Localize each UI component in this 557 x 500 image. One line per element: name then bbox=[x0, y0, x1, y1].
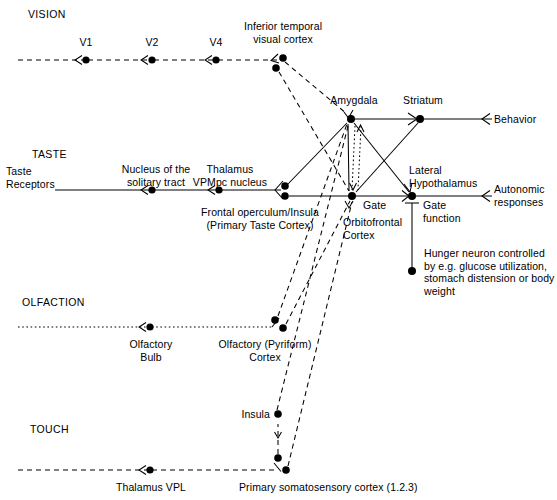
line-somatosensory-to-ofc bbox=[288, 202, 352, 466]
behavior-pathway bbox=[347, 113, 492, 125]
cross-projections bbox=[344, 110, 418, 192]
label-insula: Insula bbox=[228, 408, 270, 421]
line-amygdala-to-ofc-dotted bbox=[352, 126, 355, 190]
dot-somatosensory-a bbox=[274, 454, 282, 462]
label-autonomic-responses: Autonomic responses bbox=[494, 183, 556, 208]
line-taste-to-amygdala bbox=[288, 123, 347, 184]
label-gate-function: Gate function bbox=[423, 199, 479, 224]
dot-lateral-hypothalamus bbox=[408, 192, 416, 200]
label-frontal-operculum-insula: Frontal operculum/Insula (Primary Taste … bbox=[185, 206, 335, 231]
dot-olfactory-cortex-b bbox=[279, 324, 287, 332]
label-striatum: Striatum bbox=[396, 94, 450, 107]
label-behavior: Behavior bbox=[494, 113, 554, 126]
label-v4: V4 bbox=[202, 36, 230, 49]
touch-pathway bbox=[18, 454, 290, 474]
vision-heading: VISION bbox=[28, 8, 66, 21]
arrowhead-ofc-in bbox=[350, 183, 357, 190]
line-ofc-to-amygdala-solid bbox=[348, 124, 349, 191]
label-lateral-hypothalamus: Lateral Hypothalamus bbox=[409, 164, 493, 189]
dot-it-cortex-b bbox=[272, 64, 280, 72]
arrowhead-somatosensory bbox=[274, 463, 281, 472]
vision-pathway bbox=[18, 54, 287, 72]
label-olfactory-pyriform-cortex: Olfactory (Pyriform) Cortex bbox=[200, 338, 330, 363]
label-amygdala: Amygdala bbox=[326, 94, 382, 107]
label-primary-somatosensory-cortex: Primary somatosensory cortex (1.2.3) bbox=[239, 481, 499, 494]
taste-projections bbox=[288, 123, 348, 196]
amygdala-ofc-reciprocal bbox=[350, 125, 365, 190]
label-thalamus-vpl: Thalamus VPL bbox=[110, 481, 192, 494]
label-gate: Gate bbox=[363, 199, 399, 212]
label-v2: V2 bbox=[138, 36, 166, 49]
dot-striatum bbox=[416, 115, 424, 123]
dot-olfactory-cortex-a bbox=[271, 316, 279, 324]
dot-hunger-neuron bbox=[408, 267, 416, 275]
dot-v1 bbox=[82, 56, 89, 63]
label-orbitofrontal-cortex: Orbitofrontal Cortex bbox=[343, 216, 419, 241]
dot-it-cortex-a bbox=[279, 54, 287, 62]
line-amygdala-to-lateral-hypothalamus bbox=[354, 123, 409, 192]
brain-pathway-diagram: .s { stroke:#000; stroke-width:1.05; fil… bbox=[0, 0, 557, 500]
line-ofc-to-amygdala-dotted bbox=[358, 126, 361, 190]
dot-v4 bbox=[212, 56, 219, 63]
dot-olfactory-bulb bbox=[146, 323, 153, 330]
label-v1: V1 bbox=[72, 36, 100, 49]
label-taste-receptors: Taste Receptors bbox=[6, 165, 76, 190]
label-hunger-neuron: Hunger neuron controlled by e.g. glucose… bbox=[424, 247, 557, 297]
dot-primary-taste-cortex-b bbox=[281, 192, 289, 200]
dot-amygdala bbox=[347, 115, 355, 123]
touch-heading: TOUCH bbox=[30, 423, 69, 436]
taste-heading: TASTE bbox=[32, 148, 67, 161]
line-insula-to-amygdala bbox=[277, 126, 348, 410]
label-olfactory-bulb: Olfactory Bulb bbox=[118, 338, 184, 363]
dot-v2 bbox=[148, 56, 155, 63]
dot-somatosensory-b bbox=[282, 466, 290, 474]
olfaction-pathway bbox=[18, 316, 287, 332]
olfaction-heading: OLFACTION bbox=[22, 296, 85, 309]
dot-insula bbox=[274, 410, 282, 418]
label-inferior-temporal-visual-cortex: Inferior temporal visual cortex bbox=[228, 20, 338, 45]
vision-projections bbox=[279, 62, 349, 191]
arrowhead-it-cortex bbox=[271, 54, 279, 63]
dot-primary-taste-cortex-a bbox=[281, 182, 289, 190]
dot-thalamus-vpl bbox=[146, 466, 153, 473]
label-thalamus-vpmpc-nucleus: Thalamus VPMpc nucleus bbox=[182, 163, 278, 188]
dot-orbitofrontal-cortex bbox=[348, 192, 356, 200]
